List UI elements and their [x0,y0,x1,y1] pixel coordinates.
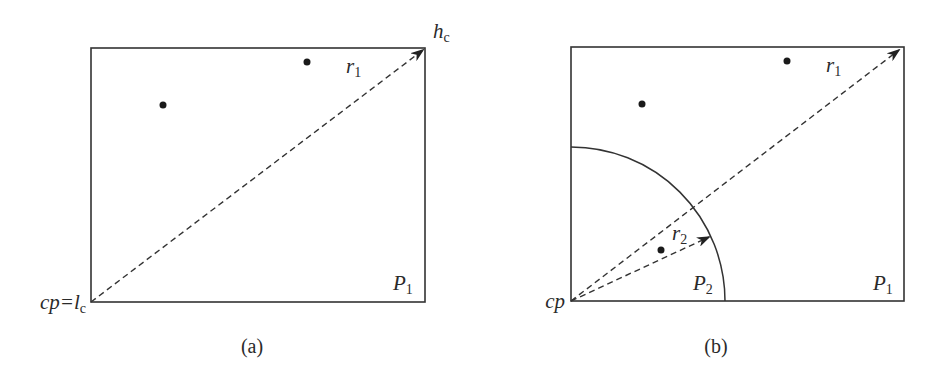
caption-b: (b) [704,335,727,358]
corner-low-label: cp=lc [40,290,86,316]
corner-high-label: hc [433,19,450,45]
ray-r2-arrow [571,237,709,301]
ray-r1-arrow [91,50,423,302]
ray-r2-label: r2 [672,221,687,247]
ray-r1-label: r1 [346,54,361,80]
caption-a: (a) [241,335,263,358]
panel-a: cp=lc hc r1 P1 (a) [40,19,450,358]
partition-p1-label: P1 [392,271,413,297]
partition-p2-label: P2 [692,271,713,297]
panel-b: cp r1 r2 P2 P1 (b) [545,47,904,358]
data-point [160,102,167,109]
data-point [784,58,791,65]
ray-r1-label: r1 [826,53,841,79]
partition-p1-label: P1 [872,271,893,297]
ray-r1-arrow [571,50,899,301]
origin-label: cp [545,289,565,313]
data-point [304,59,311,66]
diagram-canvas: cp=lc hc r1 P1 (a) cp r1 r2 P2 P1 (b) [0,0,942,379]
data-point [639,101,646,108]
data-point [658,247,665,254]
